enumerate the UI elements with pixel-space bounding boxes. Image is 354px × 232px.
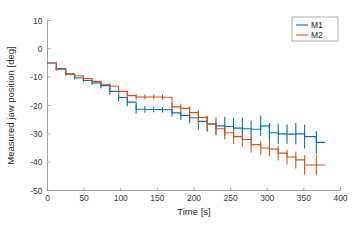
- x-axis-ticks: 050100150200250300350400: [45, 188, 348, 203]
- legend-label-m1: M1: [311, 20, 323, 30]
- chart-legend[interactable]: M1M2: [292, 17, 338, 41]
- series-line-m1: [48, 63, 326, 142]
- y-axis-label: Measured jaw position [deg]: [5, 46, 16, 164]
- series-m2: [48, 62, 326, 174]
- y-tick-label: -50: [30, 186, 43, 196]
- data-series-layer: [48, 62, 326, 174]
- x-tick-label: 100: [114, 193, 128, 203]
- x-tick-label: 50: [79, 193, 89, 203]
- x-tick-label: 250: [224, 193, 238, 203]
- x-tick-label: 400: [333, 193, 347, 203]
- series-line-m2: [48, 63, 326, 165]
- x-tick-label: 0: [45, 193, 50, 203]
- x-axis-label: Time [s]: [177, 206, 210, 217]
- chart-svg: 050100150200250300350400 100-10-20-30-40…: [0, 0, 354, 232]
- figure-canvas: 050100150200250300350400 100-10-20-30-40…: [0, 0, 354, 232]
- plot-axes: [48, 21, 341, 191]
- y-tick-label: 10: [33, 16, 43, 26]
- y-tick-label: 0: [38, 44, 43, 54]
- x-tick-label: 350: [297, 193, 311, 203]
- x-tick-label: 200: [187, 193, 201, 203]
- y-tick-label: -30: [30, 129, 43, 139]
- x-tick-label: 150: [150, 193, 164, 203]
- y-tick-label: -10: [30, 72, 43, 82]
- x-tick-label: 300: [260, 193, 274, 203]
- y-tick-label: -20: [30, 101, 43, 111]
- legend-label-m2: M2: [311, 30, 323, 40]
- y-tick-label: -40: [30, 157, 43, 167]
